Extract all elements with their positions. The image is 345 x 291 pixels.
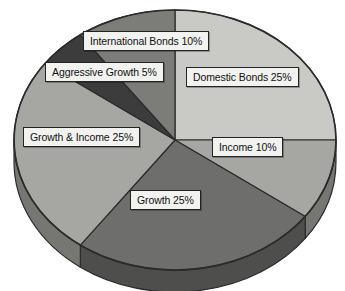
pie-label-income: Income 10% — [212, 137, 283, 157]
pie-label-domestic-bonds: Domestic Bonds 25% — [186, 67, 299, 87]
pie-label-growth-and-income: Growth & Income 25% — [23, 127, 140, 147]
pie-label-aggressive-growth: Aggressive Growth 5% — [45, 62, 164, 82]
pie-chart: Domestic Bonds 25%Income 10%Growth 25%Gr… — [0, 0, 345, 291]
pie-label-growth: Growth 25% — [130, 190, 201, 210]
pie-label-international-bonds: International Bonds 10% — [83, 31, 209, 51]
